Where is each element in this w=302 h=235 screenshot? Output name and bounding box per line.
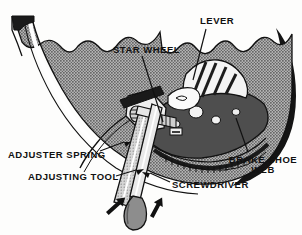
- label-adjusting-tool: ADJUSTING TOOL: [28, 172, 119, 182]
- label-brake-shoe-web: BRAKE SHOE WEB: [228, 155, 298, 175]
- arrow-right: [147, 195, 166, 219]
- label-screwdriver: SCREWDRIVER: [172, 180, 249, 190]
- label-star-wheel: STAR WHEEL: [113, 45, 180, 55]
- brake-adjustment-illustration: LEVER STAR WHEEL ADJUSTER SPRING ADJUSTI…: [0, 0, 302, 235]
- illustration-artwork: [0, 0, 302, 235]
- label-adjuster-spring: ADJUSTER SPRING: [8, 150, 106, 160]
- label-lever: LEVER: [200, 16, 234, 26]
